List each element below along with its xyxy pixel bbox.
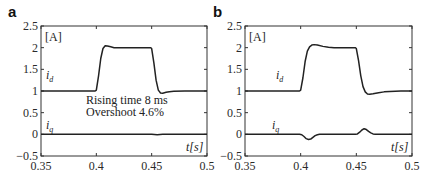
panel-b-id-label-sub: d (279, 75, 284, 84)
panel-b-ytick-labels: −0.500.511.522.5 (220, 19, 242, 163)
figure: a −0.500.511.522.5 0.350.40.450.5 [A] id… (0, 0, 436, 177)
panel-a-annotation-overshoot: Overshoot 4.6% (86, 105, 164, 119)
panel-b-iq-label: iq (272, 118, 279, 134)
panel-b-ytick-label: 1 (236, 84, 242, 98)
panel-a-xtick-label: 0.4 (89, 159, 104, 173)
panel-a-ytick-label: 0.5 (23, 106, 38, 120)
panel-b-id-curve (245, 45, 412, 95)
panel-a-iq-label-sub: q (49, 125, 53, 134)
panel-a-xtick-label: 0.35 (31, 159, 52, 173)
panel-b-id-label: id (276, 68, 284, 84)
panel-b-xtick-label: 0.4 (293, 159, 308, 173)
panel-a-id-label-sub: d (49, 75, 54, 84)
panel-b-iq-label-sub: q (275, 125, 279, 134)
panel-a-xtick-label: 0.45 (141, 159, 162, 173)
panel-b-xtick-label: 0.5 (405, 159, 420, 173)
panel-a: a −0.500.511.522.5 0.350.40.450.5 [A] id… (8, 3, 215, 173)
panel-a-letter: a (8, 3, 17, 20)
panel-b-letter: b (213, 3, 222, 20)
panel-a-xtick-label: 0.5 (200, 159, 215, 173)
panel-a-ytick-label: 2.5 (23, 19, 38, 33)
panel-a-ytick-label: 1 (32, 84, 38, 98)
panel-b: b −0.500.511.522.5 0.350.40.450.5 [A] id… (213, 3, 420, 173)
panel-b-ytick-label: 0 (236, 127, 242, 141)
panel-b-ytick-label: 2 (236, 41, 242, 55)
panel-a-ytick-label: 1.5 (23, 62, 38, 76)
panel-b-xtick-labels: 0.350.40.450.5 (235, 159, 420, 173)
panel-a-id-curve (41, 46, 207, 94)
panel-b-xtick-label: 0.45 (346, 159, 367, 173)
panel-b-xlabel: t[s] (391, 140, 409, 154)
panel-a-unit-label: [A] (45, 30, 62, 44)
panel-a-xtick-labels: 0.350.40.450.5 (31, 159, 215, 173)
panel-b-xtick-label: 0.35 (235, 159, 256, 173)
panel-a-ytick-labels: −0.500.511.522.5 (16, 19, 38, 163)
panel-b-ytick-label: 2.5 (227, 19, 242, 33)
panel-a-xlabel: t[s] (186, 140, 204, 154)
panel-a-id-label: id (46, 68, 54, 84)
panel-a-ytick-label: 2 (32, 41, 38, 55)
panel-b-ytick-label: 1.5 (227, 62, 242, 76)
panel-a-iq-label: iq (46, 118, 53, 134)
panel-b-iq-curve (245, 129, 412, 140)
panel-a-ytick-label: 0 (32, 127, 38, 141)
panel-b-unit-label: [A] (249, 30, 266, 44)
panel-b-ytick-label: 0.5 (227, 106, 242, 120)
